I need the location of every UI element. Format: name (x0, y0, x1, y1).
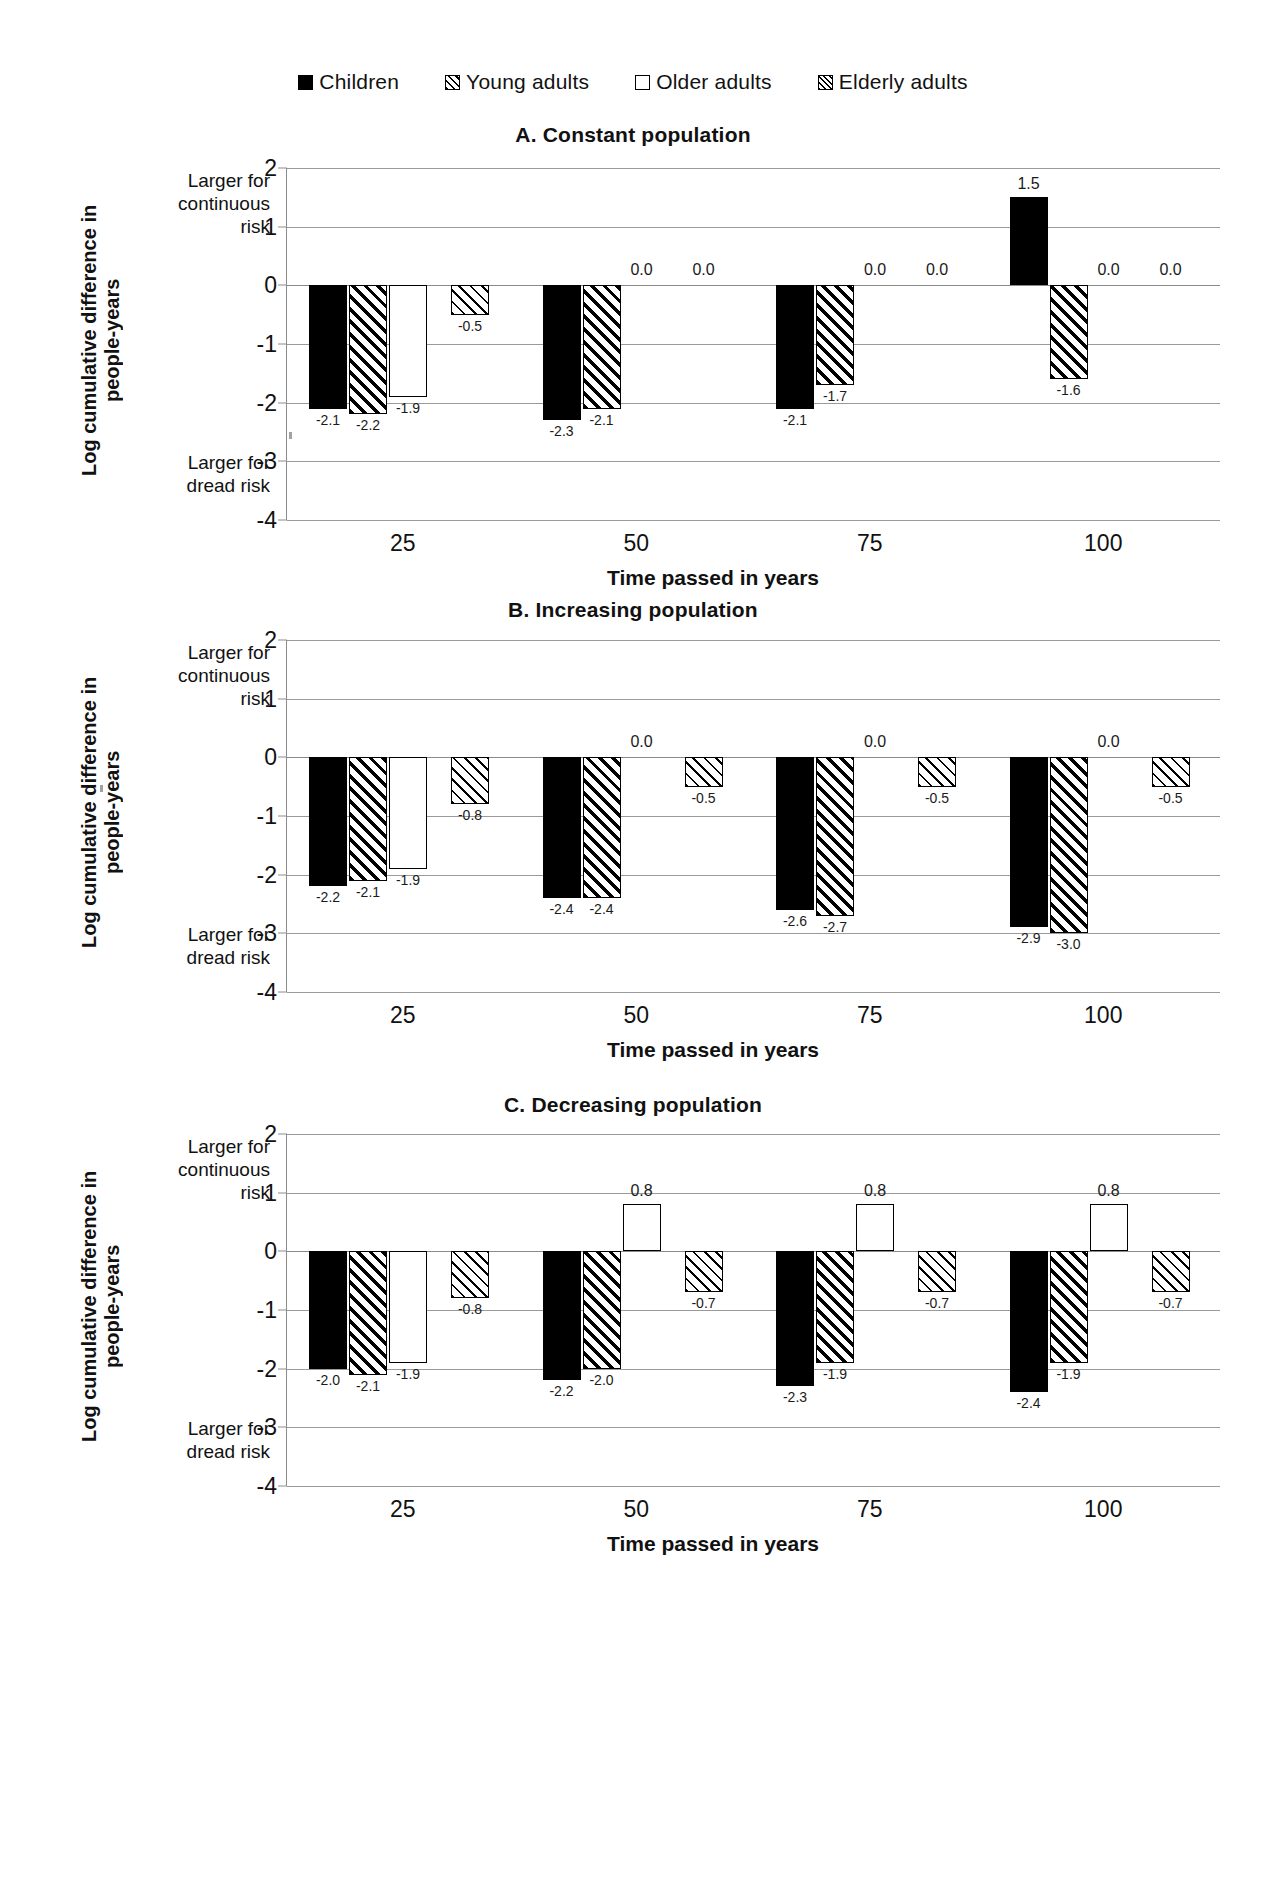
y-tick-mark-1 (278, 226, 287, 227)
data-label-a-25-elderly-adults: -0.5 (458, 318, 482, 334)
chart-legend: Children Young adults Older adults Elder… (0, 70, 1266, 94)
x-tick-label-c-100: 100 (1084, 1496, 1122, 1523)
gridline--4 (287, 520, 1220, 521)
gridline--3 (287, 933, 1220, 934)
y-tick-mark-1 (278, 698, 287, 699)
annotation-dread-risk-c: Larger for dread risk (120, 1418, 270, 1464)
bar-a-25-children (309, 285, 347, 408)
bar-c-25-older-adults (389, 1251, 427, 1362)
scan-artifact (100, 785, 103, 792)
bar-c-50-older-adults (623, 1204, 661, 1251)
diagonal-hatch-square-icon (445, 75, 460, 90)
bar-b-50-young-adults (583, 757, 621, 898)
data-label-c-75-children: -2.3 (783, 1389, 807, 1405)
annotation-continuous-risk-b: Larger for continuous risk (120, 642, 270, 710)
panel-title-a: A. Constant population (0, 123, 1266, 147)
x-axis-title-c: Time passed in years (607, 1532, 819, 1556)
y-tick-mark--3 (278, 461, 287, 462)
y-tick-mark-2 (278, 640, 287, 641)
annotation-continuous-risk-a: Larger for continuous risk (120, 170, 270, 238)
x-tick-label-c-50: 50 (623, 1496, 649, 1523)
data-label-c-50-young-adults: -2.0 (589, 1372, 613, 1388)
y-tick-label--3: -3 (257, 1414, 277, 1441)
data-label-a-100-older-adults: 0.0 (1097, 261, 1119, 279)
bar-b-100-young-adults (1050, 757, 1088, 933)
data-label-c-25-young-adults: -2.1 (356, 1378, 380, 1394)
bar-c-50-young-adults (583, 1251, 621, 1368)
bar-c-100-young-adults (1050, 1251, 1088, 1362)
y-tick-mark-1 (278, 1192, 287, 1193)
y-axis-title-b: Log cumulative difference in people-year… (78, 667, 124, 957)
y-tick-mark--2 (278, 1368, 287, 1369)
y-tick-mark--4 (278, 1486, 287, 1487)
y-tick-mark-2 (278, 1134, 287, 1135)
data-label-a-25-young-adults: -2.2 (356, 417, 380, 433)
bar-b-75-children (776, 757, 814, 910)
plot-area-b: 210-1-2-3-4-2.2-2.1-1.9-0.8-2.4-2.40.0-0… (286, 640, 1220, 992)
data-label-c-75-older-adults: 0.8 (864, 1182, 886, 1200)
x-tick-label-a-75: 75 (857, 530, 883, 557)
y-tick-mark--3 (278, 933, 287, 934)
bar-a-25-older-adults (389, 285, 427, 396)
bar-c-75-elderly-adults (918, 1251, 956, 1292)
y-tick-label--1: -1 (257, 1297, 277, 1324)
filled-square-icon (298, 75, 313, 90)
bar-a-100-young-adults (1050, 285, 1088, 379)
data-label-a-50-elderly-adults: 0.0 (692, 261, 714, 279)
x-tick-label-a-25: 25 (390, 530, 416, 557)
data-label-c-25-older-adults: -1.9 (396, 1366, 420, 1382)
bar-a-50-young-adults (583, 285, 621, 408)
bar-b-75-elderly-adults (918, 757, 956, 786)
y-tick-mark--4 (278, 992, 287, 993)
data-label-b-25-older-adults: -1.9 (396, 872, 420, 888)
y-tick-label--3: -3 (257, 448, 277, 475)
y-tick-label--1: -1 (257, 331, 277, 358)
bar-b-25-young-adults (349, 757, 387, 880)
bar-c-100-elderly-adults (1152, 1251, 1190, 1292)
x-tick-label-b-75: 75 (857, 1002, 883, 1029)
bar-a-50-children (543, 285, 581, 420)
x-tick-label-a-100: 100 (1084, 530, 1122, 557)
data-label-b-100-children: -2.9 (1016, 930, 1040, 946)
data-label-c-75-elderly-adults: -0.7 (925, 1295, 949, 1311)
data-label-a-50-children: -2.3 (549, 423, 573, 439)
y-tick-label-2: 2 (264, 1121, 277, 1148)
legend-label-young-adults: Young adults (466, 70, 589, 94)
gridline--3 (287, 461, 1220, 462)
gridline-1 (287, 699, 1220, 700)
y-tick-label-0: 0 (264, 272, 277, 299)
bar-a-100-children (1010, 197, 1048, 285)
gridline-2 (287, 168, 1220, 169)
data-label-c-50-older-adults: 0.8 (630, 1182, 652, 1200)
x-tick-label-a-50: 50 (623, 530, 649, 557)
data-label-a-100-young-adults: -1.6 (1056, 382, 1080, 398)
data-label-c-100-children: -2.4 (1016, 1395, 1040, 1411)
legend-item-older-adults: Older adults (635, 70, 772, 94)
bar-c-75-older-adults (856, 1204, 894, 1251)
data-label-c-100-elderly-adults: -0.7 (1158, 1295, 1182, 1311)
x-tick-label-c-25: 25 (390, 1496, 416, 1523)
annotation-dread-risk-b: Larger for dread risk (120, 924, 270, 970)
gridline--2 (287, 403, 1220, 404)
data-label-c-75-young-adults: -1.9 (823, 1366, 847, 1382)
x-axis-title-b: Time passed in years (607, 1038, 819, 1062)
data-label-a-75-young-adults: -1.7 (823, 388, 847, 404)
y-tick-mark--2 (278, 874, 287, 875)
y-tick-mark-0 (278, 757, 287, 758)
y-tick-mark--4 (278, 520, 287, 521)
y-tick-label-1: 1 (264, 1179, 277, 1206)
data-label-b-50-children: -2.4 (549, 901, 573, 917)
data-label-b-75-children: -2.6 (783, 913, 807, 929)
data-label-c-50-elderly-adults: -0.7 (691, 1295, 715, 1311)
data-label-a-100-elderly-adults: 0.0 (1159, 261, 1181, 279)
data-label-c-25-elderly-adults: -0.8 (458, 1301, 482, 1317)
bar-b-100-children (1010, 757, 1048, 927)
data-label-c-25-children: -2.0 (316, 1372, 340, 1388)
bar-a-25-young-adults (349, 285, 387, 414)
legend-label-children: Children (319, 70, 399, 94)
bar-b-75-young-adults (816, 757, 854, 915)
data-label-b-100-older-adults: 0.0 (1097, 733, 1119, 751)
data-label-a-100-children: 1.5 (1017, 175, 1039, 193)
bar-c-75-children (776, 1251, 814, 1386)
bar-c-25-young-adults (349, 1251, 387, 1374)
